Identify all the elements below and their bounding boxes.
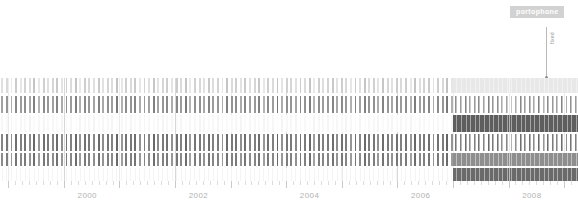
tick-bar xyxy=(322,96,324,114)
tick-bar xyxy=(250,168,251,181)
tick-bar xyxy=(227,168,228,181)
tick-bar xyxy=(189,96,191,114)
tick-bar xyxy=(442,153,444,165)
tick-bar xyxy=(240,78,242,93)
tick-bar xyxy=(272,115,274,131)
tick-bar xyxy=(153,153,155,165)
tick-bar xyxy=(75,115,77,131)
tick-bar xyxy=(194,115,196,131)
tick-bar xyxy=(111,96,113,114)
tick-bar xyxy=(231,78,233,93)
tick-bar xyxy=(20,134,22,152)
tick-bar xyxy=(148,134,150,152)
tick-bar xyxy=(281,134,283,152)
tick-bar xyxy=(355,153,357,165)
axis-major-tick xyxy=(397,181,398,188)
tick-bar xyxy=(400,134,402,152)
tick-bar xyxy=(254,153,256,165)
tick-bar xyxy=(332,168,333,181)
tick-bar xyxy=(176,168,177,181)
tick-bar xyxy=(116,115,118,131)
tick-bar xyxy=(29,153,31,165)
tick-bar xyxy=(43,78,45,93)
tick-bar xyxy=(199,115,201,131)
tick-bar xyxy=(172,168,173,181)
tick-bar xyxy=(1,96,3,114)
tick-bar xyxy=(387,134,389,152)
tick-bar xyxy=(75,78,77,93)
axis-minor-tick xyxy=(99,181,100,185)
tick-bar xyxy=(84,96,86,114)
tick-bar xyxy=(94,168,95,181)
axis-minor-tick xyxy=(488,181,489,185)
tick-bar xyxy=(166,96,168,114)
axis-minor-tick xyxy=(140,181,141,185)
tick-bar xyxy=(249,134,251,152)
axis-minor-tick xyxy=(502,181,503,185)
tick-bar xyxy=(350,115,352,131)
tick-bar xyxy=(337,168,338,181)
tick-bar xyxy=(377,115,379,131)
tick-bar xyxy=(79,153,81,165)
tick-bar xyxy=(11,168,12,181)
tick-bar xyxy=(300,96,302,114)
tick-bar xyxy=(438,168,439,181)
axis-minor-tick xyxy=(571,181,572,185)
tick-bar xyxy=(277,134,279,152)
axis-major-tick xyxy=(175,181,176,188)
tick-bar xyxy=(148,115,150,131)
tick-bar xyxy=(52,78,54,93)
tick-bar xyxy=(102,78,104,93)
tick-bar xyxy=(125,78,127,93)
plot-area xyxy=(0,78,578,181)
tick-bar xyxy=(75,96,77,114)
tick-bar xyxy=(295,168,296,181)
axis-minor-tick xyxy=(377,181,378,185)
tick-bar xyxy=(281,78,283,93)
tick-bar xyxy=(327,115,329,131)
tick-bar xyxy=(322,134,324,152)
tick-bar xyxy=(1,134,3,152)
series-badge-portophone[interactable]: portophone xyxy=(510,6,564,18)
tick-bar xyxy=(447,168,448,181)
tick-bar xyxy=(442,78,444,93)
tick-bar xyxy=(263,168,264,181)
tick-bar xyxy=(387,153,389,165)
tick-bar xyxy=(428,78,430,93)
axis-minor-tick xyxy=(85,181,86,185)
tick-bar xyxy=(116,153,118,165)
tick-bar xyxy=(75,134,77,152)
tick-bar xyxy=(194,96,196,114)
tick-bar xyxy=(414,96,416,114)
tick-bar xyxy=(414,78,416,93)
tick-bar xyxy=(15,115,17,131)
tick-bar xyxy=(382,78,384,93)
tick-bar xyxy=(428,168,429,181)
tick-bar xyxy=(84,78,86,93)
tick-bar xyxy=(368,134,370,152)
tick-bar xyxy=(359,78,361,93)
tick-bar xyxy=(318,96,320,114)
axis-minor-tick xyxy=(418,181,419,185)
tick-bar xyxy=(226,96,228,114)
tick-bar xyxy=(244,115,246,131)
tick-bar xyxy=(231,134,233,152)
tick-bar xyxy=(332,115,334,131)
axis-minor-tick xyxy=(293,181,294,185)
tick-bar xyxy=(11,153,13,165)
tick-bar xyxy=(277,168,278,181)
tick-bar xyxy=(61,153,63,165)
tick-bar xyxy=(377,153,379,165)
tick-bar xyxy=(112,168,113,181)
tick-bar xyxy=(373,134,375,152)
tick-bar xyxy=(171,115,173,131)
tick-bar xyxy=(43,134,45,152)
tick-bar xyxy=(93,153,95,165)
tick-bar xyxy=(6,78,8,93)
tick-bar xyxy=(336,153,338,165)
tick-bar xyxy=(327,153,329,165)
tick-bar xyxy=(162,115,164,131)
tick-bar xyxy=(71,168,72,181)
tick-bar xyxy=(66,78,68,93)
tick-bar xyxy=(79,134,81,152)
